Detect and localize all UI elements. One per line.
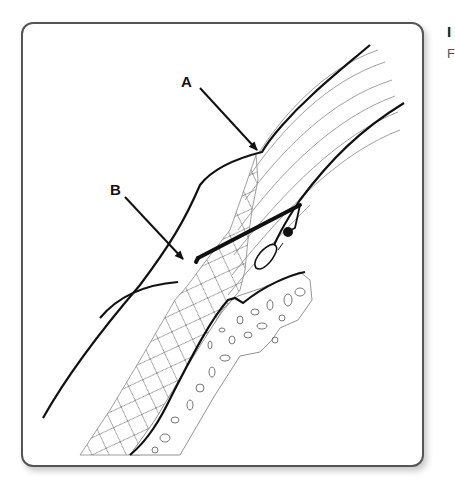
bar-end-hook [196, 258, 198, 262]
arrow-a [200, 88, 257, 150]
side-caption-line-2: F [447, 46, 455, 61]
oval-tail [278, 243, 283, 250]
side-caption-line-1: I [447, 23, 451, 40]
arrow-b [125, 197, 183, 259]
black-dot [283, 227, 293, 237]
oval-structure [255, 244, 277, 269]
label-a: A [181, 73, 192, 90]
label-b: B [110, 181, 121, 198]
